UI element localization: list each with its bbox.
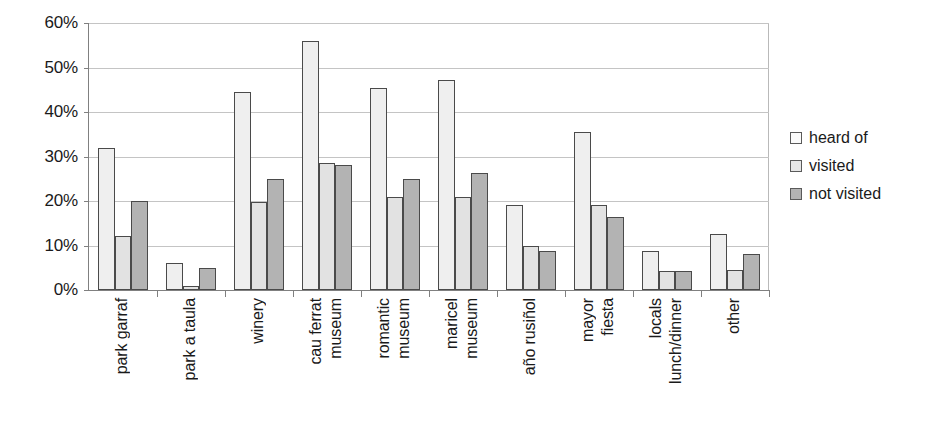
x-axis-label-line: fiesta [598,298,618,336]
bars [89,23,769,290]
bar [574,132,591,290]
x-axis-label-line: museum [394,298,414,359]
y-tick-mark [84,290,89,291]
y-tick-label: 0% [54,281,78,298]
bar [710,234,727,291]
bar [183,286,200,290]
bar-chart: 0%10%20%30%40%50%60% park garrafpark a t… [0,0,935,441]
x-axis-label-line: museum [326,298,346,359]
x-axis-category-label: other [724,298,744,438]
legend-item: not visited [790,180,930,208]
bar [199,268,216,290]
x-axis-label-line: año rusiñol [520,298,540,375]
bar [387,197,404,290]
y-tick-label: 30% [45,148,78,165]
bar [370,88,387,290]
bar [659,271,676,290]
legend-item: heard of [790,124,930,152]
bar [335,165,352,290]
x-axis-label-line: other [724,298,744,334]
bar [302,41,319,290]
x-tick-mark [769,290,770,297]
bar [539,251,556,290]
bar [727,270,744,290]
bar [131,201,148,290]
x-axis-label-line: winery [248,298,268,344]
bar [438,80,455,290]
y-tick-label: 50% [45,59,78,76]
legend-swatch-icon [790,160,802,172]
bar [607,217,624,290]
bar [115,236,132,290]
plot-area [88,23,769,291]
chart-legend: heard ofvisitednot visited [790,124,930,208]
y-tick-label: 40% [45,103,78,120]
x-axis-labels: park garrafpark a taulawinerymuseumcau f… [88,292,768,441]
x-axis-category-label: lunch/dinnerlocals [646,298,686,438]
y-tick-label: 20% [45,192,78,209]
x-axis-category-label: fiestamayor [578,298,618,438]
bar [642,251,659,290]
x-axis-category-label: park a taula [180,298,200,438]
y-tick-label: 10% [45,237,78,254]
bar [675,271,692,290]
x-axis-label-line: museum [462,298,482,359]
legend-label: not visited [809,186,881,202]
legend-label: heard of [809,130,868,146]
x-axis-category-label: park garraf [112,298,132,438]
x-axis-label-line: cau ferrat [306,298,326,365]
bar [455,197,472,290]
x-axis-category-label: museumcau ferrat [306,298,346,438]
bar [251,202,268,290]
x-axis-category-label: museumromantic [374,298,414,438]
bar [743,254,760,290]
legend-label: visited [809,158,854,174]
bar [319,163,336,290]
bar [267,179,284,290]
bar [234,92,251,290]
x-axis-label-line: romantic [374,298,394,359]
x-axis-label-line: lunch/dinner [666,298,686,384]
bar [98,148,115,290]
x-axis-label-line: park a taula [180,298,200,380]
bar [471,173,488,290]
x-axis-label-line: maricel [442,298,462,349]
bar [166,263,183,290]
bar [523,246,540,291]
legend-item: visited [790,152,930,180]
bar [591,205,608,290]
bar [506,205,523,290]
legend-swatch-icon [790,188,802,200]
x-axis-label-line: locals [646,298,666,338]
x-axis-category-label: año rusiñol [520,298,540,438]
x-axis-label-line: park garraf [112,298,132,374]
y-tick-label: 60% [45,14,78,31]
y-axis: 0%10%20%30%40%50%60% [0,0,86,441]
x-axis-category-label: winery [248,298,268,438]
x-axis-category-label: museummaricel [442,298,482,438]
legend-swatch-icon [790,132,802,144]
bar [403,179,420,290]
x-axis-label-line: mayor [578,298,598,342]
